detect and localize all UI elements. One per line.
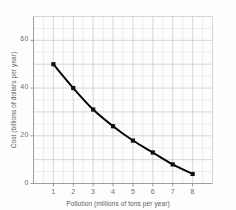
minor-gridlines [34, 17, 213, 184]
data-point-marker [191, 172, 195, 176]
data-point-marker [131, 138, 135, 142]
x-tick-label: 8 [183, 188, 203, 195]
x-tick-label: 3 [83, 188, 103, 195]
x-tick-label: 7 [163, 188, 183, 195]
data-point-marker [151, 150, 155, 154]
x-tick-label: 1 [43, 188, 63, 195]
chart-plot-area [0, 0, 236, 210]
y-tick-label: 0 [8, 179, 29, 186]
data-point-marker [91, 107, 95, 111]
data-point-marker [51, 62, 55, 66]
x-axis-label: Pollution (millions of tons per year) [0, 200, 236, 207]
y-tick-label: 60 [8, 35, 29, 42]
data-point-marker [111, 124, 115, 128]
cost-vs-pollution-chart: 12345678 0204060 Pollution (millions of … [0, 0, 236, 210]
y-axis-label: Cost (billions of dollars per year) [10, 52, 17, 149]
data-point-marker [71, 86, 75, 90]
data-point-marker [171, 162, 175, 166]
x-tick-label: 2 [63, 188, 83, 195]
x-tick-label: 6 [143, 188, 163, 195]
x-tick-label: 5 [123, 188, 143, 195]
x-tick-label: 4 [103, 188, 123, 195]
